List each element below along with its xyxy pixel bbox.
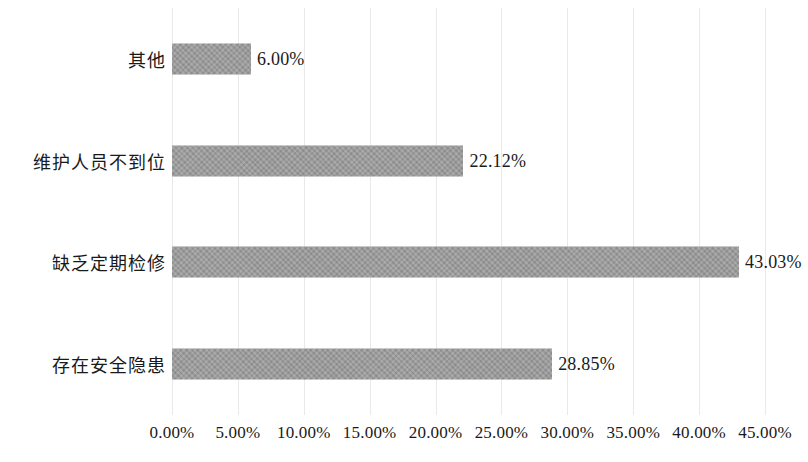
x-tick-label: 0.00%	[150, 423, 195, 443]
bar-value-label: 22.12%	[469, 150, 526, 171]
bar-row: 22.12%	[172, 110, 765, 212]
bar-chart: 其他维护人员不到位缺乏定期检修存在安全隐患 6.00%22.12%43.03%2…	[0, 0, 808, 462]
bar[interactable]	[172, 349, 552, 380]
x-tick-label: 20.00%	[409, 423, 463, 443]
bar[interactable]	[172, 43, 251, 74]
x-tick-label: 40.00%	[672, 423, 726, 443]
gridline	[765, 8, 766, 415]
category-label: 维护人员不到位	[0, 148, 166, 174]
bar[interactable]	[172, 247, 739, 278]
x-tick-label: 45.00%	[738, 423, 792, 443]
x-tick-label: 5.00%	[215, 423, 260, 443]
plot-area: 6.00%22.12%43.03%28.85%	[172, 8, 765, 415]
x-tick-label: 10.00%	[277, 423, 331, 443]
category-axis: 其他维护人员不到位缺乏定期检修存在安全隐患	[0, 8, 166, 415]
bar-value-label: 28.85%	[558, 354, 615, 375]
x-tick-label: 15.00%	[343, 423, 397, 443]
bar[interactable]	[172, 145, 463, 176]
bar-value-label: 43.03%	[745, 252, 802, 273]
x-tick-label: 25.00%	[475, 423, 529, 443]
x-tick-label: 35.00%	[606, 423, 660, 443]
x-tick-label: 30.00%	[541, 423, 595, 443]
bar-row: 43.03%	[172, 212, 765, 314]
bar-row: 28.85%	[172, 313, 765, 415]
bar-row: 6.00%	[172, 8, 765, 110]
category-label: 存在安全隐患	[0, 351, 166, 377]
bar-value-label: 6.00%	[257, 48, 305, 69]
category-label: 其他	[0, 46, 166, 72]
x-axis: 0.00%5.00%10.00%15.00%20.00%25.00%30.00%…	[172, 421, 765, 455]
category-label: 缺乏定期检修	[0, 249, 166, 275]
